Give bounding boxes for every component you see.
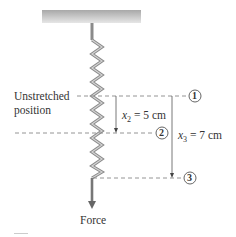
ceiling-support [42,10,141,23]
footer-mark [14,233,28,234]
unstretched-label-line2: position [14,104,51,116]
x2-arrowhead-icon [114,128,118,133]
force-arrowhead-icon [88,201,96,209]
x3-label: x3 = 7 cm [178,129,222,146]
marker-3-label: 3 [187,172,192,184]
x3-value: = 7 cm [187,129,222,141]
x2-label: x2 = 5 cm [122,109,166,126]
spring-diagram [0,0,236,237]
marker-2-label: 2 [159,127,164,139]
x3-arrowhead-icon [170,173,174,178]
unstretched-label-line1: Unstretched [14,90,70,102]
marker-1-label: 1 [192,90,197,102]
force-label: Force [80,214,106,226]
spring-coil [92,40,102,178]
x2-value: = 5 cm [131,109,166,121]
